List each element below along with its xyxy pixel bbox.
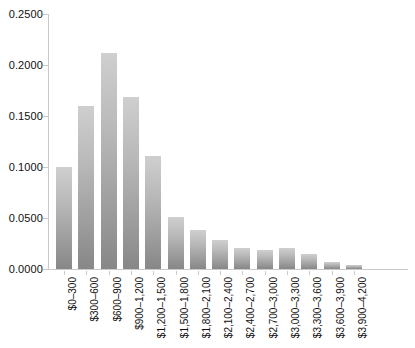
x-tick-mark: [86, 271, 87, 275]
x-tick-mark: [176, 271, 177, 275]
x-tick-label: $600–900: [113, 277, 123, 322]
y-tick-label: 0.0500: [9, 213, 43, 224]
x-tick-mark: [287, 271, 288, 275]
bars-layer: [49, 14, 409, 269]
y-tick-mark: [43, 269, 48, 270]
x-tick-label: $3,300–3,600: [313, 277, 323, 338]
x-axis-line: [48, 269, 408, 270]
bar: [101, 53, 117, 269]
x-axis: $0–300$300–600$600–900$900–1,200$1,200–1…: [49, 271, 409, 348]
x-tick-label: $2,400–2,700: [246, 277, 256, 338]
plot-area: [49, 14, 409, 269]
x-tick-mark: [332, 271, 333, 275]
x-tick-label: $2,700–3,000: [269, 277, 279, 338]
x-tick-label: $300–600: [90, 277, 100, 322]
y-tick-label: 0.1500: [9, 111, 43, 122]
y-tick-label: 0.2000: [9, 60, 43, 71]
x-tick-mark: [265, 271, 266, 275]
x-tick-label: $900–1,200: [135, 277, 145, 330]
x-tick-mark: [309, 271, 310, 275]
bar-chart: 0.25000.20000.15000.10000.05000.0000 $0–…: [0, 0, 415, 348]
x-tick-label: $1,200–1,500: [157, 277, 167, 338]
x-tick-label: $0–300: [68, 277, 78, 310]
x-tick-mark: [354, 271, 355, 275]
bar: [257, 250, 273, 269]
bar: [145, 156, 161, 269]
x-tick-label: $3,600–3,900: [336, 277, 346, 338]
x-tick-label: $3,000–3,300: [291, 277, 301, 338]
x-tick-label: $1,500–1,800: [180, 277, 190, 338]
y-tick-mark: [43, 167, 48, 168]
x-tick-label: $1,800–2,100: [202, 277, 212, 338]
y-tick-mark: [43, 65, 48, 66]
y-tick-label: 0.0000: [9, 264, 43, 275]
x-tick-mark: [64, 271, 65, 275]
bar: [168, 217, 184, 269]
bar: [324, 262, 340, 269]
y-tick-mark: [43, 116, 48, 117]
bar: [78, 106, 94, 269]
x-tick-mark: [109, 271, 110, 275]
bar: [56, 167, 72, 269]
y-tick-label: 0.1000: [9, 162, 43, 173]
x-tick-label: $2,100–2,400: [224, 277, 234, 338]
bar: [212, 240, 228, 269]
bar: [190, 230, 206, 269]
bar: [279, 248, 295, 269]
bar: [123, 97, 139, 269]
bar: [301, 254, 317, 269]
x-tick-mark: [220, 271, 221, 275]
x-tick-mark: [153, 271, 154, 275]
x-tick-mark: [242, 271, 243, 275]
y-tick-label: 0.2500: [9, 9, 43, 20]
bar: [346, 265, 362, 269]
y-tick-mark: [43, 218, 48, 219]
x-tick-label: $3,900–4,200: [358, 277, 368, 338]
x-tick-mark: [198, 271, 199, 275]
bar: [234, 248, 250, 269]
x-tick-mark: [131, 271, 132, 275]
y-axis: 0.25000.20000.15000.10000.05000.0000: [0, 0, 48, 348]
y-tick-mark: [43, 14, 48, 15]
